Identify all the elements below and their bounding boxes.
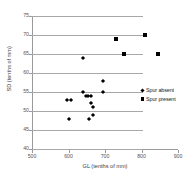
y-tick-label: 65 [13, 51, 29, 56]
y-tick-mark [29, 92, 32, 93]
y-tick-label: 50 [13, 108, 29, 113]
legend-label: Spur absent [146, 88, 174, 93]
gridline [32, 16, 143, 17]
gridline [32, 35, 143, 36]
y-tick-label: 55 [13, 89, 29, 94]
x-tick-label: 600 [59, 154, 79, 159]
data-point [122, 52, 126, 56]
data-point [143, 33, 147, 37]
y-axis-title: SD (tenths of mm) [7, 19, 13, 119]
gridline [32, 54, 143, 55]
data-point [91, 105, 95, 109]
y-tick-mark [29, 73, 32, 74]
data-point [66, 116, 70, 120]
legend-item-spur-present: Spur present [139, 95, 176, 104]
y-tick-label: 70 [13, 32, 29, 37]
data-point [86, 116, 90, 120]
y-tick-mark [29, 35, 32, 36]
scatter-chart: 4045505560657075500600700800900 SD (tent… [0, 0, 196, 189]
legend-item-spur-absent: Spur absent [139, 86, 176, 95]
x-axis-title: GL (tenths of mm) [32, 164, 178, 170]
y-tick-label: 40 [13, 146, 29, 151]
gridline [32, 149, 143, 150]
square-marker-icon [139, 97, 146, 102]
gridline [32, 73, 143, 74]
plot-area [32, 16, 143, 149]
chart-legend: Spur absent Spur present [139, 86, 176, 104]
data-point [114, 37, 118, 41]
y-tick-label: 75 [13, 13, 29, 18]
y-tick-mark [29, 16, 32, 17]
x-tick-label: 900 [168, 154, 188, 159]
data-point [101, 90, 105, 94]
data-point [69, 97, 73, 101]
x-tick-label: 700 [95, 154, 115, 159]
y-tick-mark [29, 54, 32, 55]
data-point [81, 56, 85, 60]
gridline [32, 111, 143, 112]
diamond-marker-icon [139, 88, 146, 93]
y-tick-mark [29, 130, 32, 131]
y-tick-label: 45 [13, 127, 29, 132]
y-tick-label: 60 [13, 70, 29, 75]
legend-label: Spur present [146, 97, 176, 102]
data-point [91, 113, 95, 117]
x-tick-label: 500 [22, 154, 42, 159]
data-point [156, 52, 160, 56]
data-point [101, 78, 105, 82]
x-tick-label: 800 [132, 154, 152, 159]
data-point [89, 94, 93, 98]
gridline [32, 130, 143, 131]
y-tick-mark [29, 111, 32, 112]
